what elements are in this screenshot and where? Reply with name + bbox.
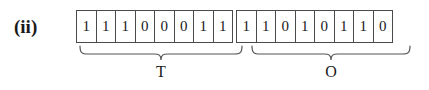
bit-cell: 1 bbox=[295, 10, 316, 43]
bit-cell: 1 bbox=[96, 10, 117, 43]
bit-cell: 0 bbox=[373, 10, 394, 43]
bit-cell: 1 bbox=[115, 10, 136, 43]
bit-group-o: 11010110 bbox=[236, 10, 392, 43]
bit-string-figure: (ii) 1110001111010110 T O bbox=[0, 0, 429, 90]
bit-cell: 1 bbox=[334, 10, 355, 43]
brace-t bbox=[78, 45, 244, 61]
bit-cell: 1 bbox=[256, 10, 277, 43]
group-label-o: O bbox=[311, 63, 351, 81]
bit-cell: 1 bbox=[236, 10, 257, 43]
bit-cell: 1 bbox=[213, 10, 234, 43]
bit-cell: 0 bbox=[135, 10, 156, 43]
bit-cell: 0 bbox=[314, 10, 335, 43]
bit-group-t: 11100011 bbox=[76, 10, 232, 43]
figure-label: (ii) bbox=[14, 16, 37, 38]
bit-cell: 0 bbox=[174, 10, 195, 43]
bit-cell: 0 bbox=[154, 10, 175, 43]
bit-cell: 1 bbox=[353, 10, 374, 43]
bit-cell-row: 1110001111010110 bbox=[76, 10, 392, 43]
group-label-t: T bbox=[141, 63, 181, 81]
bit-cell: 0 bbox=[275, 10, 296, 43]
bit-cell: 1 bbox=[76, 10, 97, 43]
bit-cell: 1 bbox=[193, 10, 214, 43]
brace-o bbox=[250, 45, 412, 61]
